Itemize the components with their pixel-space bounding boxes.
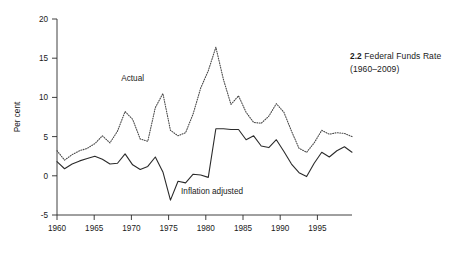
y-tick-label-15: 15 — [39, 54, 49, 63]
y-tick-label-20: 20 — [39, 15, 49, 24]
x-tick-label-1990: 1990 — [271, 224, 290, 233]
y-tick-label-minus5: -5 — [41, 211, 49, 220]
annotation-inflation-adjusted: Inflation adjusted — [181, 187, 243, 196]
y-tick-label-0: 0 — [43, 172, 48, 181]
y-axis-title: Per cent — [13, 101, 22, 132]
caption-years: (1960–2009) — [350, 63, 458, 76]
federal-funds-rate-chart: 20 15 10 5 0 -5 Per cent 1960 1965 1970 … — [0, 0, 458, 253]
caption-number: 2.2 — [350, 51, 362, 61]
x-tick-label-1995: 1995 — [308, 224, 327, 233]
y-tick-label-5: 5 — [43, 133, 48, 142]
x-tick-label-1985: 1985 — [234, 224, 253, 233]
y-tick-label-10: 10 — [39, 93, 49, 102]
annotation-actual: Actual — [121, 74, 144, 83]
x-axis-ticks — [57, 215, 317, 220]
y-axis-tick-labels: 20 15 10 5 0 -5 — [39, 15, 49, 220]
x-tick-label-1980: 1980 — [197, 224, 216, 233]
caption-title: Federal Funds Rate — [364, 51, 441, 61]
x-tick-label-1970: 1970 — [122, 224, 141, 233]
x-tick-label-1965: 1965 — [85, 224, 104, 233]
figure-caption: 2.2 Federal Funds Rate (1960–2009) — [350, 50, 458, 75]
x-axis-tick-labels: 1960 1965 1970 1975 1980 1985 1990 1995 — [48, 224, 327, 233]
x-tick-label-1960: 1960 — [48, 224, 67, 233]
y-axis-ticks — [52, 19, 57, 215]
x-tick-label-1975: 1975 — [159, 224, 178, 233]
series-line-actual — [57, 47, 352, 160]
figure-container: 20 15 10 5 0 -5 Per cent 1960 1965 1970 … — [0, 0, 458, 253]
